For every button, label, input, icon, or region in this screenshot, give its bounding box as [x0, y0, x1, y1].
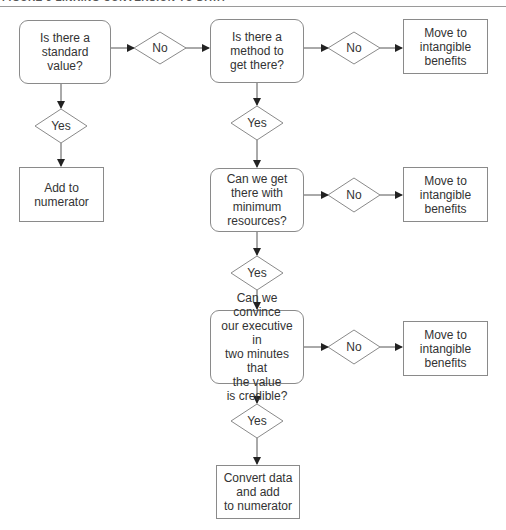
- question-method-text: Is there a method to get there?: [230, 30, 284, 72]
- decision-no2-label: No: [328, 178, 380, 212]
- intangible-benefits-text-3: Move to intangible benefits: [420, 328, 471, 370]
- question-convince-executive-text: Can we convince our executive in two min…: [215, 291, 299, 403]
- intangible-benefits-box-2: Move to intangible benefits: [403, 167, 488, 222]
- intangible-benefits-box-3: Move to intangible benefits: [403, 321, 488, 376]
- question-standard-value: Is there a standard value?: [19, 20, 111, 84]
- intangible-benefits-box-1: Move to intangible benefits: [403, 19, 488, 74]
- convert-data-box: Convert data and add to numerator: [216, 465, 300, 519]
- add-to-numerator-text: Add to numerator: [34, 181, 89, 209]
- question-minimum-resources-text: Can we get there with minimum resources?: [227, 172, 288, 228]
- decision-no3-label: No: [328, 330, 380, 364]
- decision-yes4-label: Yes: [231, 404, 283, 438]
- question-standard-value-text: Is there a standard value?: [24, 31, 106, 73]
- convert-data-text: Convert data and add to numerator: [224, 471, 293, 513]
- question-method: Is there a method to get there?: [210, 19, 304, 83]
- decision-yes3-label: Yes: [231, 256, 283, 290]
- decision-yes1-label: Yes: [35, 109, 87, 143]
- intangible-benefits-text-1: Move to intangible benefits: [420, 26, 471, 68]
- question-minimum-resources: Can we get there with minimum resources?: [210, 168, 304, 232]
- decision-yes2-label: Yes: [231, 106, 283, 140]
- decision-notop-label: No: [328, 32, 380, 64]
- question-convince-executive: Can we convince our executive in two min…: [210, 310, 304, 384]
- add-to-numerator-box: Add to numerator: [19, 167, 104, 222]
- intangible-benefits-text-2: Move to intangible benefits: [420, 174, 471, 216]
- decision-no1-label: No: [134, 32, 186, 64]
